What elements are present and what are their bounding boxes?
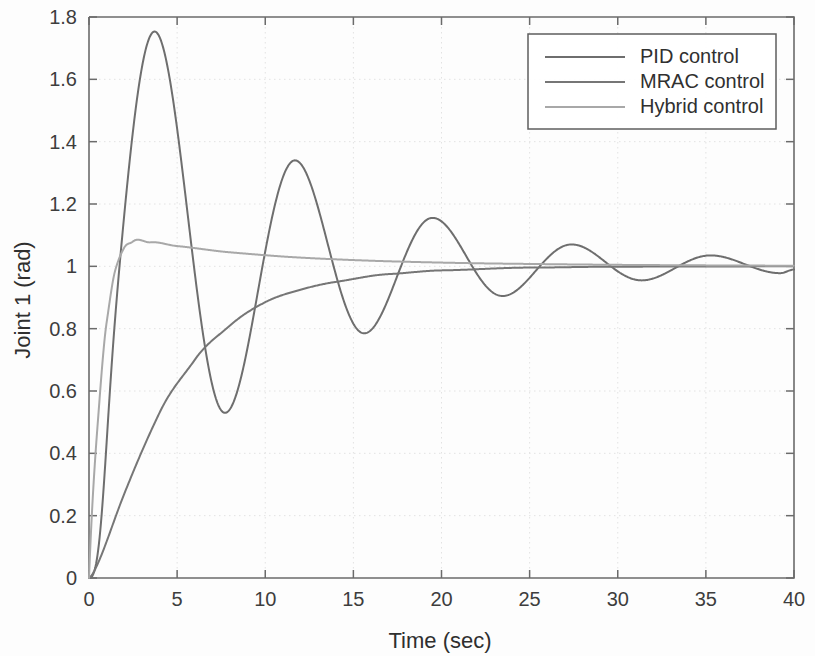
y-tick-label: 1.8 [49, 6, 77, 28]
legend-label-pid: PID control [640, 45, 739, 67]
y-tick-label: 1.2 [49, 193, 77, 215]
y-tick-label: 0.4 [49, 442, 77, 464]
x-tick-label: 40 [783, 588, 805, 610]
legend-label-hybrid: Hybrid control [640, 95, 763, 117]
x-tick-label: 20 [430, 588, 452, 610]
x-tick-label: 30 [607, 588, 629, 610]
line-chart: 051015202530354000.20.40.60.811.21.41.61… [0, 0, 815, 656]
x-tick-label: 10 [254, 588, 276, 610]
y-tick-label: 1.6 [49, 68, 77, 90]
x-tick-label: 15 [342, 588, 364, 610]
legend-label-mrac: MRAC control [640, 70, 764, 92]
y-tick-label: 1.4 [49, 131, 77, 153]
y-tick-label: 0 [66, 567, 77, 589]
y-axis-title: Joint 1 (rad) [10, 241, 35, 358]
x-axis-title: Time (sec) [388, 628, 491, 653]
y-tick-label: 0.6 [49, 380, 77, 402]
x-tick-label: 5 [172, 588, 183, 610]
y-tick-label: 0.8 [49, 318, 77, 340]
y-tick-label: 1 [66, 255, 77, 277]
chart-legend[interactable]: PID control MRAC control Hybrid control [528, 34, 776, 129]
x-tick-label: 0 [83, 588, 94, 610]
x-tick-label: 25 [519, 588, 541, 610]
x-tick-label: 35 [695, 588, 717, 610]
y-tick-label: 0.2 [49, 505, 77, 527]
figure-canvas: 051015202530354000.20.40.60.811.21.41.61… [0, 0, 815, 656]
